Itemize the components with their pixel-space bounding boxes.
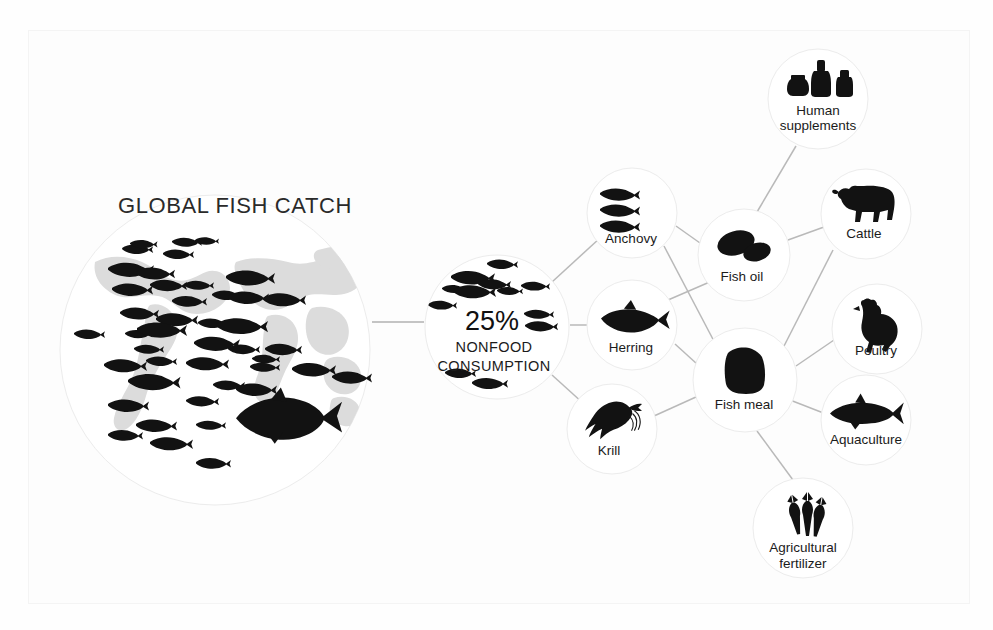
node-fish-meal[interactable]: Fish meal (693, 328, 797, 432)
node-poultry[interactable]: Poultry (832, 284, 922, 374)
edge-herring-fishoil (668, 281, 712, 300)
edge-anchovy-fishoil (676, 226, 700, 243)
fertilizer-label-line2: fertilizer (779, 556, 827, 571)
node-herring[interactable]: Herring (587, 280, 677, 370)
fish-oil-label: Fish oil (721, 269, 764, 284)
edge-fishmeal-aquaculture (790, 400, 826, 414)
edge-nonfood-anchovy (552, 238, 600, 282)
nonfood-label-line1: NONFOOD (456, 339, 533, 355)
krill-label: Krill (598, 443, 621, 458)
node-cattle[interactable]: Cattle (821, 169, 911, 259)
node-agricultural-fertilizer[interactable]: Agricultural fertilizer (753, 478, 853, 578)
node-global-fish-catch[interactable]: GLOBAL FISH CATCH (60, 193, 401, 505)
fish-catch-flow-diagram: GLOBAL FISH CATCH (0, 0, 993, 630)
anchovy-label: Anchovy (605, 231, 657, 246)
edge-fishmeal-poultry (796, 340, 834, 366)
meal-sack-icon (725, 348, 765, 394)
cattle-label: Cattle (846, 226, 881, 241)
node-anchovy[interactable]: Anchovy (587, 168, 677, 258)
human-supplements-label-line1: Human (796, 103, 840, 118)
fertilizer-label-line1: Agricultural (769, 540, 837, 555)
herring-label: Herring (609, 340, 653, 355)
page-title: GLOBAL FISH CATCH (118, 193, 352, 218)
node-aquaculture[interactable]: Aquaculture (821, 375, 911, 465)
edge-krill-fishmeal (654, 397, 696, 416)
edge-herring-fishmeal (675, 344, 697, 364)
edge-fishmeal-fertilizer (757, 431, 793, 480)
node-nonfood-consumption[interactable]: 25% NONFOOD CONSUMPTION (425, 255, 569, 399)
edge-fishoil-cattle (788, 227, 824, 240)
nonfood-label-line2: CONSUMPTION (437, 358, 550, 374)
node-krill[interactable]: Krill (567, 384, 657, 474)
infographic-canvas: GLOBAL FISH CATCH (0, 0, 993, 630)
poultry-label: Poultry (855, 343, 897, 358)
node-human-supplements[interactable]: Human supplements (768, 49, 868, 149)
node-fish-oil[interactable]: Fish oil (698, 209, 790, 301)
edge-fishoil-humansupplements (757, 146, 796, 212)
human-supplements-label-line2: supplements (780, 118, 857, 133)
edge-fishmeal-cattle (782, 250, 833, 350)
cattle-bubble (821, 169, 911, 259)
fish-meal-label: Fish meal (715, 397, 774, 412)
aquaculture-label: Aquaculture (830, 432, 902, 447)
nonfood-percent: 25% (465, 306, 519, 336)
